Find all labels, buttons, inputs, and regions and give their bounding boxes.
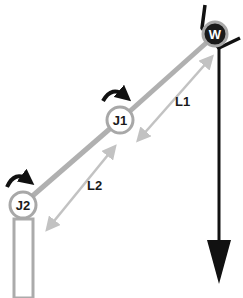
rotation-arrow-icon <box>7 176 28 187</box>
joint-j2-label: J2 <box>16 198 30 213</box>
dimension-arrow-l2 <box>50 150 112 226</box>
joint-j2: J2 <box>7 176 36 218</box>
link-l2-label: L2 <box>87 178 102 193</box>
weight-node: W <box>203 22 227 46</box>
robot-arm-diagram: W J1 J2 L1 L2 <box>0 0 243 298</box>
joint-j1-label: J1 <box>113 113 127 128</box>
base-column-icon <box>14 219 33 298</box>
link-l1-label: L1 <box>175 94 190 109</box>
rotation-arrow-icon <box>103 92 125 101</box>
gravity-arrow-icon <box>207 48 231 284</box>
weight-label: W <box>209 27 222 42</box>
joint-j1: J1 <box>103 92 133 133</box>
link-l2 <box>22 120 120 205</box>
